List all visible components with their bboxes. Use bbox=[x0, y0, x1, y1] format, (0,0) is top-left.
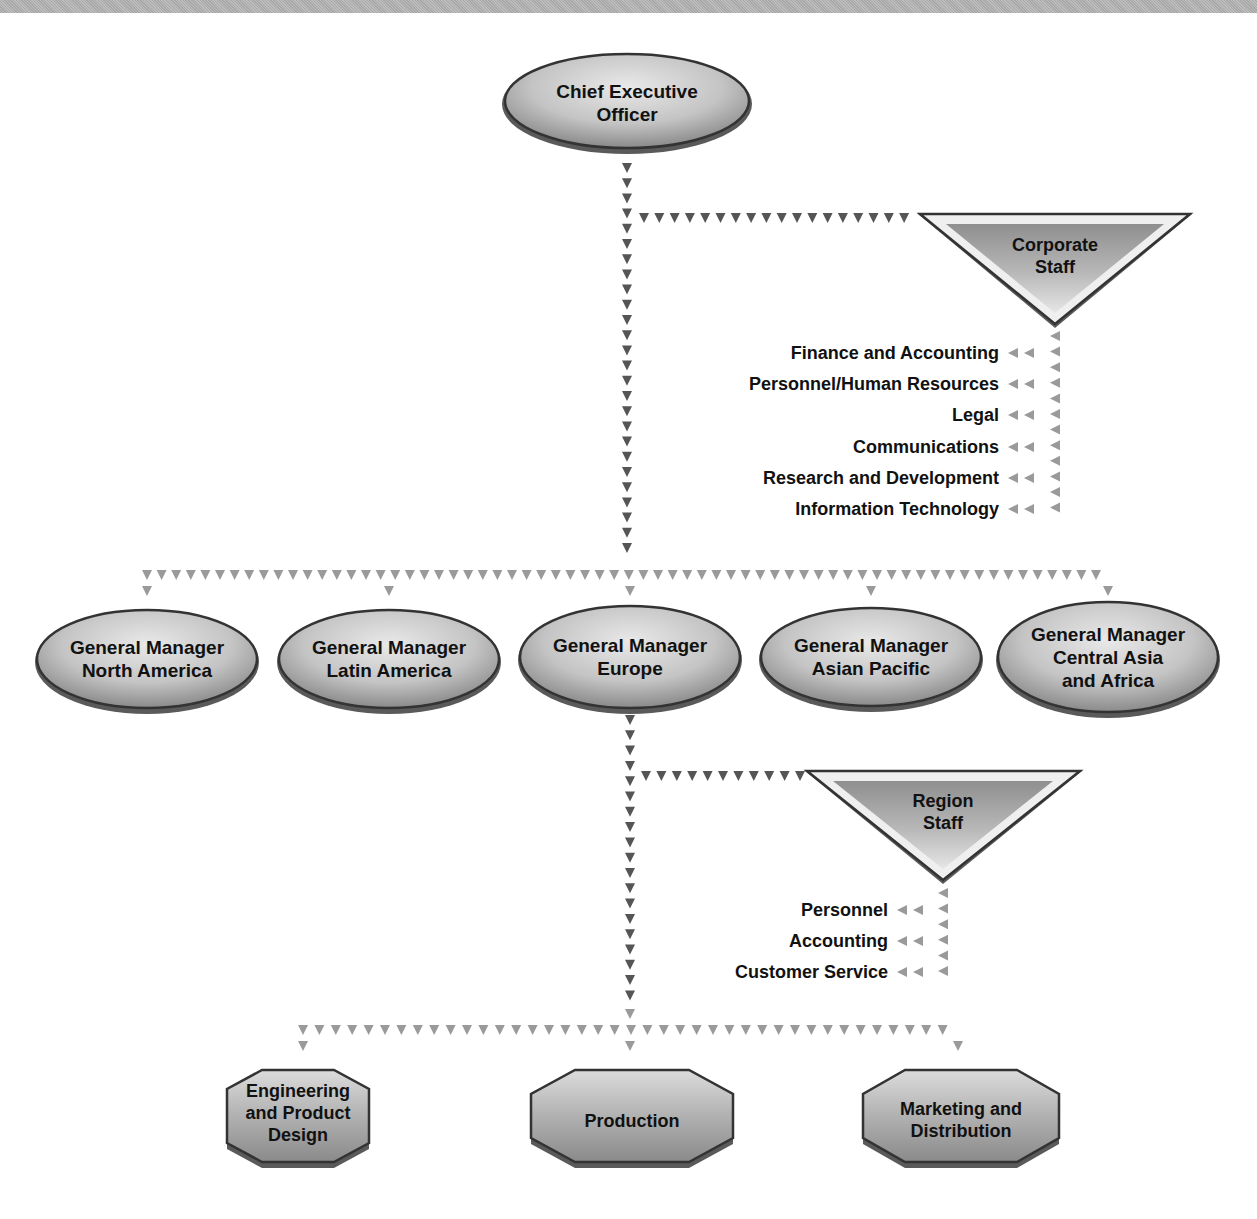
corporate-function-rnd: Research and Development bbox=[763, 468, 999, 489]
dept-node-production[interactable] bbox=[531, 1070, 733, 1168]
gm-node-north-america[interactable] bbox=[35, 610, 259, 714]
corporate-function-hr: Personnel/Human Resources bbox=[749, 374, 999, 395]
corporate-function-it: Information Technology bbox=[795, 499, 999, 520]
corporate-function-legal: Legal bbox=[952, 405, 999, 426]
dept-node-engineering[interactable] bbox=[227, 1070, 369, 1168]
org-chart-canvas bbox=[0, 0, 1257, 1219]
gm-node-central-asia-africa[interactable] bbox=[996, 602, 1220, 718]
region-function-customer-service: Customer Service bbox=[735, 962, 888, 983]
corporate-function-communications: Communications bbox=[853, 437, 999, 458]
region-function-accounting: Accounting bbox=[789, 931, 888, 952]
corporate-function-finance: Finance and Accounting bbox=[791, 343, 999, 364]
region-function-personnel: Personnel bbox=[801, 900, 888, 921]
gm-node-asian-pacific[interactable] bbox=[759, 608, 983, 712]
corporate-staff-node[interactable] bbox=[918, 214, 1192, 328]
region-staff-node[interactable] bbox=[805, 771, 1082, 884]
gm-node-europe[interactable] bbox=[518, 606, 742, 714]
dept-node-marketing[interactable] bbox=[863, 1070, 1059, 1168]
ceo-node[interactable] bbox=[502, 54, 752, 154]
gm-node-latin-america[interactable] bbox=[277, 610, 501, 714]
